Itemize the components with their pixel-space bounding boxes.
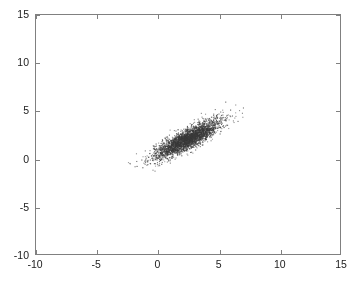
x-tick-mark <box>158 250 159 254</box>
plot-area <box>35 14 341 255</box>
y-tick-mark <box>336 111 340 112</box>
y-tick-label: -5 <box>20 201 29 212</box>
y-tick-label: 15 <box>17 9 29 20</box>
y-tick-mark <box>336 208 340 209</box>
x-tick-label: -10 <box>27 259 42 270</box>
y-tick-mark <box>36 15 40 16</box>
y-tick-mark <box>36 111 40 112</box>
y-tick-mark <box>36 208 40 209</box>
scatter-plot-figure: -10-5051015 151050-5-10 <box>0 0 360 288</box>
scatter-points-layer <box>36 15 341 255</box>
x-tick-mark <box>281 15 282 19</box>
x-tick-mark <box>158 15 159 19</box>
y-tick-mark <box>336 160 340 161</box>
y-tick-label: 5 <box>23 105 29 116</box>
y-tick-mark <box>336 15 340 16</box>
x-tick-label: 5 <box>216 259 222 270</box>
y-tick-label: 10 <box>17 57 29 68</box>
x-tick-mark <box>97 250 98 254</box>
y-tick-mark <box>336 63 340 64</box>
x-tick-label: 0 <box>154 259 160 270</box>
y-tick-label: -10 <box>14 250 29 261</box>
y-tick-mark <box>36 160 40 161</box>
x-tick-mark <box>281 250 282 254</box>
x-tick-mark <box>220 15 221 19</box>
x-tick-mark <box>97 15 98 19</box>
y-tick-label: 0 <box>23 153 29 164</box>
x-tick-label: 10 <box>274 259 286 270</box>
x-tick-mark <box>36 250 37 254</box>
x-tick-label: -5 <box>92 259 101 270</box>
x-tick-label: 15 <box>335 259 347 270</box>
y-tick-mark <box>36 63 40 64</box>
x-tick-mark <box>220 250 221 254</box>
